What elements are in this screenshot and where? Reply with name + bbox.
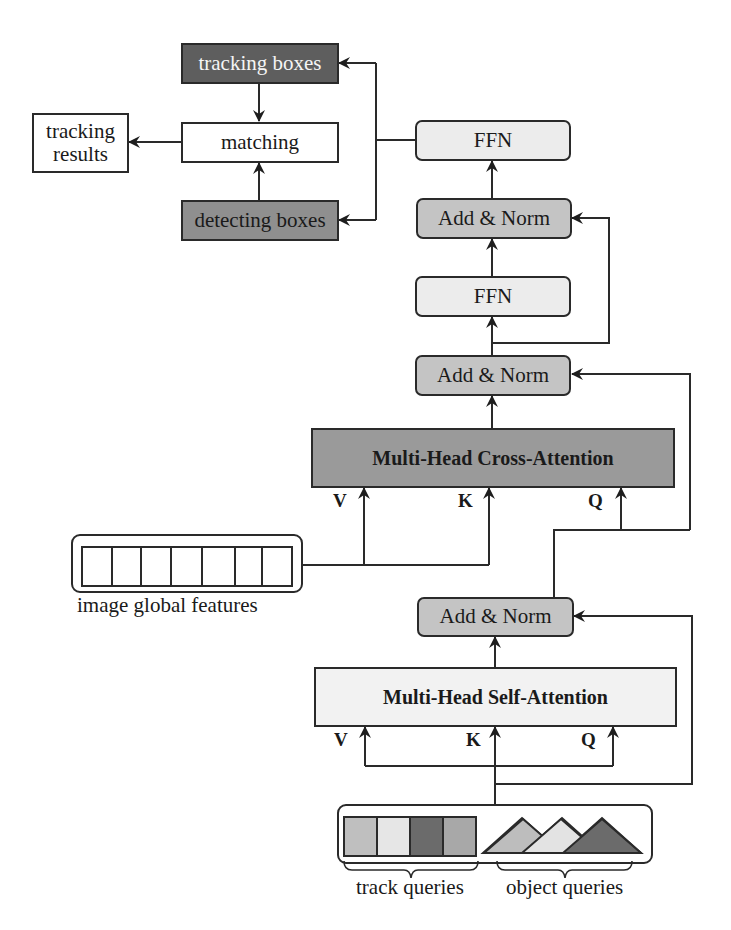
object-query-triangles-fix: [0, 0, 731, 930]
track-queries-label: track queries: [356, 875, 464, 900]
object-queries-label: object queries: [506, 875, 623, 900]
